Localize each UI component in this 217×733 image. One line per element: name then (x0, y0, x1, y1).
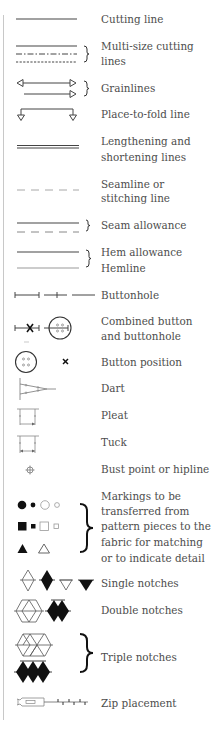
legend-label: Cutting line (101, 12, 163, 28)
legend-label: Lengthening and (101, 134, 191, 150)
legend-label: Tuck (101, 435, 127, 451)
legend-label: Zip placement (101, 696, 177, 712)
legend-label: Button position (101, 355, 182, 371)
legend-label: stitching line (101, 191, 170, 207)
legend-label: fabric for matching (101, 535, 203, 551)
legend-label: Seam allowance (101, 218, 186, 234)
legend-label: or to indicate detail (101, 551, 205, 567)
legend-label: shortening lines (101, 150, 186, 166)
legend-label: transferred from (101, 504, 189, 520)
legend-label: Combined button (101, 314, 192, 330)
legend-label: pattern pieces to the (101, 519, 211, 535)
legend-label: Place-to-fold line (101, 107, 190, 123)
legend-label: lines (101, 54, 126, 70)
legend-label: Single notches (101, 576, 179, 592)
legend-label: Buttonhole (101, 288, 159, 304)
legend-label: Markings to be (101, 489, 181, 505)
legend-label: Hem allowance (101, 245, 182, 261)
legend-label: Double notches (101, 603, 183, 619)
legend-label: Hemline (101, 261, 146, 277)
legend-label: Bust point or hipline (101, 462, 209, 478)
legend-label: Triple notches (101, 650, 177, 666)
zip-icon (0, 0, 100, 720)
legend-label: Dart (101, 381, 125, 397)
legend-label: Grainlines (101, 81, 155, 97)
legend-label: and buttonhole (101, 329, 181, 345)
legend-label: Multi-size cutting (101, 39, 194, 55)
legend-label: Pleat (101, 408, 128, 424)
